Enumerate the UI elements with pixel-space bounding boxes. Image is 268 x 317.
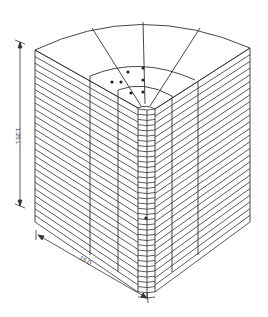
radial-line-4	[150, 28, 200, 106]
height-dimension	[15, 40, 25, 208]
radial-line-2	[92, 28, 141, 106]
radial-line-5	[155, 48, 250, 109]
height-label: 1.25 L	[15, 128, 21, 145]
width-label: 15 D	[79, 255, 94, 267]
node-markers	[110, 66, 147, 219]
mesh-layers	[35, 48, 250, 298]
vertical-edges	[35, 48, 250, 298]
mesh-diagram: 1.25 L 15 D	[0, 0, 268, 317]
core-top-arc	[138, 106, 155, 109]
outer-top-arc	[35, 24, 250, 50]
